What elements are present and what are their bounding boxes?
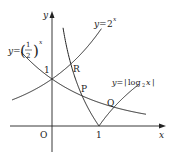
svg-text:): ) xyxy=(33,42,39,60)
svg-text:1: 1 xyxy=(26,41,30,49)
svg-text:y=: y= xyxy=(111,78,123,87)
svg-text:y=: y= xyxy=(93,19,107,29)
point-R-label: R xyxy=(73,64,80,74)
svg-text:2: 2 xyxy=(26,52,30,60)
svg-text:x: x xyxy=(146,78,151,87)
svg-text:(: ( xyxy=(20,42,26,60)
curve-abs-log xyxy=(63,28,139,126)
curve-exp2 xyxy=(12,29,101,100)
function-graph: y x O 1 1 y= 2 x y= ( 1 2 ) x y= | log 2… xyxy=(0,0,171,159)
point-Q-label: Q xyxy=(107,98,114,108)
y-axis-arrow-icon xyxy=(50,11,55,18)
label-half-pow: y= ( 1 2 ) x xyxy=(7,38,43,60)
svg-text:2: 2 xyxy=(107,19,113,29)
y-axis-label: y xyxy=(42,10,49,20)
svg-text:x: x xyxy=(39,38,43,45)
graph-canvas: y x O 1 1 y= 2 x y= ( 1 2 ) x y= | log 2… xyxy=(0,0,171,159)
svg-text:2: 2 xyxy=(142,82,145,88)
x-tick-1-label: 1 xyxy=(96,130,102,140)
origin-label: O xyxy=(40,130,47,140)
label-exp2: y= 2 x xyxy=(93,15,117,29)
svg-text:|: | xyxy=(152,78,155,87)
point-P-label: P xyxy=(81,84,87,94)
label-abs-log: y= | log 2 x | xyxy=(111,78,155,88)
x-axis-label: x xyxy=(159,130,164,140)
svg-text:|: | xyxy=(124,78,127,87)
svg-text:log: log xyxy=(128,78,141,87)
y-tick-1-label: 1 xyxy=(44,65,50,75)
svg-text:x: x xyxy=(113,15,117,22)
x-axis-arrow-icon xyxy=(159,124,166,129)
svg-text:y=: y= xyxy=(7,46,21,56)
